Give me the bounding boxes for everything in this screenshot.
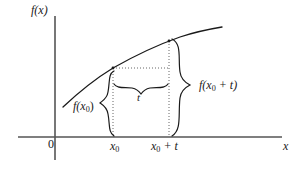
brace-t (114, 84, 168, 94)
x-axis-label: x (283, 140, 288, 152)
annotation-fx0-suffix: ) (90, 99, 94, 113)
annotation-fx0t-suffix: + t) (216, 78, 237, 92)
brace-fx0 (100, 71, 114, 136)
x-tick-x0t-suffix: + t (160, 139, 177, 153)
point-x0 (112, 67, 115, 70)
annotation-label-fx0-plus-t: f(x0 + t) (199, 79, 237, 93)
origin-label: 0 (48, 138, 54, 150)
x-tick-x0-sub: 0 (115, 145, 119, 154)
diagram-svg (0, 0, 296, 169)
annotation-fx0t-main: f(x (199, 78, 212, 92)
y-axis-label: f(x) (31, 4, 48, 16)
brace-fx0-plus-t (172, 39, 190, 136)
annotation-label-t: t (137, 92, 140, 103)
x-tick-label-x0-plus-t: x0 + t (151, 140, 178, 154)
figure-canvas: f(x) 0 x x0 x0 + t f(x0) t f(x0 + t) (0, 0, 296, 169)
y-axis-label-text: f(x) (31, 3, 48, 17)
annotation-fx0-main: f(x (73, 99, 86, 113)
annotation-label-fx0: f(x0) (73, 100, 94, 114)
point-x0-plus-t (168, 40, 171, 43)
x-tick-label-x0: x0 (110, 140, 119, 154)
function-curve (63, 27, 222, 107)
